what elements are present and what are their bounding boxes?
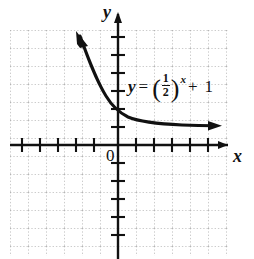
fraction-numerator: 1 xyxy=(162,72,170,86)
equation-label: y=(12)x+1 xyxy=(128,72,213,102)
origin-label: 0 xyxy=(106,146,115,166)
y-axis-label: y xyxy=(103,2,111,23)
y-axis-arrowhead xyxy=(114,12,122,23)
x-axis-label: x xyxy=(233,146,242,167)
graph-figure: y=(12)x+1 y x 0 xyxy=(0,0,254,259)
equation-exponent: x xyxy=(180,73,186,85)
coordinate-plane xyxy=(0,0,254,259)
equation-close-paren: ) xyxy=(171,74,180,103)
equation-constant: 1 xyxy=(205,77,214,96)
equation-equals: = xyxy=(139,77,149,96)
equation-lhs: y xyxy=(128,77,136,96)
equation-plus: + xyxy=(188,77,198,96)
equation-base-fraction: 12 xyxy=(161,72,171,98)
fraction-denominator: 2 xyxy=(162,86,170,99)
equation-open-paren: ( xyxy=(152,74,161,103)
